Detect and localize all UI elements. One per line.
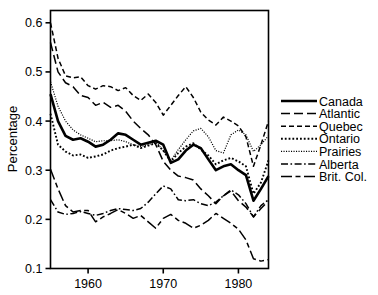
legend-label-brit-col: Brit. Col. <box>319 170 367 184</box>
x-tick-label: 1970 <box>149 277 177 291</box>
y-tick-label: 0.2 <box>25 213 42 227</box>
line-chart: 0.10.20.30.40.50.6 196019701980 Percenta… <box>0 0 378 295</box>
y-tick-label: 0.3 <box>25 164 42 178</box>
y-tick-label: 0.1 <box>25 262 42 276</box>
y-tick-label: 0.6 <box>25 16 42 30</box>
y-tick-label: 0.4 <box>25 115 42 129</box>
x-tick-label: 1980 <box>225 277 253 291</box>
y-tick-label: 0.5 <box>25 65 42 79</box>
x-tick-label: 1960 <box>74 277 102 291</box>
y-axis-title: Percentage <box>5 106 20 173</box>
chart-container: 0.10.20.30.40.50.6 196019701980 Percenta… <box>0 0 378 295</box>
